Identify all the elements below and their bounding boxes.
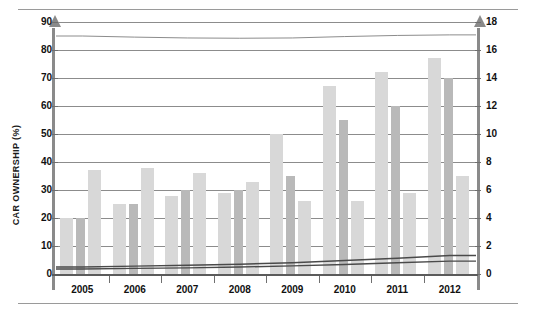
y-axis-left-tick-label: 0 bbox=[12, 269, 52, 279]
y-axis-left-line bbox=[52, 28, 55, 290]
y-axis-left-tick-label: 40 bbox=[12, 157, 52, 167]
x-axis-tick-label: 2010 bbox=[315, 284, 375, 295]
plot-area: 9080706050403020100 181614121086420 2005… bbox=[56, 22, 476, 274]
x-axis-tick-label: 2008 bbox=[210, 284, 270, 295]
chart-figure: CAR OWNERSHIP (%) ANNUAL SALES (MILLION … bbox=[0, 0, 534, 315]
y-axis-left-tick-label: 60 bbox=[12, 101, 52, 111]
trend-line-lower bbox=[56, 261, 476, 269]
y-axis-right-tick-label: 14 bbox=[486, 73, 526, 83]
y-axis-right-tick-label: 12 bbox=[486, 101, 526, 111]
x-axis-tick bbox=[424, 276, 425, 283]
y-axis-right-tick-label: 8 bbox=[486, 157, 526, 167]
y-axis-left-tick-label: 50 bbox=[12, 129, 52, 139]
y-axis-right-tick-label: 10 bbox=[486, 129, 526, 139]
y-axis-right-line bbox=[477, 28, 480, 290]
x-axis-tick-label: 2009 bbox=[262, 284, 322, 295]
x-axis-tick bbox=[109, 276, 110, 283]
y-axis-left-tick-label: 20 bbox=[12, 213, 52, 223]
y-axis-left-tick-label: 10 bbox=[12, 241, 52, 251]
line-series-group bbox=[56, 22, 476, 274]
x-axis-tick bbox=[266, 276, 267, 283]
y-axis-left-tick-label: 30 bbox=[12, 185, 52, 195]
bottom-border-rule bbox=[18, 303, 518, 304]
y-axis-left-tick-label: 90 bbox=[12, 17, 52, 27]
x-axis-tick bbox=[371, 276, 372, 283]
top-border-rule bbox=[18, 9, 518, 10]
y-axis-left-tick-label: 80 bbox=[12, 45, 52, 55]
x-axis-tick bbox=[161, 276, 162, 283]
y-axis-right-tick-label: 16 bbox=[486, 45, 526, 55]
y-axis-left-tick-label: 70 bbox=[12, 73, 52, 83]
x-axis-baseline bbox=[52, 274, 478, 276]
x-axis-tick-label: 2007 bbox=[157, 284, 217, 295]
upper-reference-line bbox=[56, 35, 476, 38]
y-axis-right-tick-label: 0 bbox=[486, 269, 526, 279]
y-axis-right-tick-label: 18 bbox=[486, 17, 526, 27]
x-axis-tick bbox=[319, 276, 320, 283]
y-axis-right-tick-label: 4 bbox=[486, 213, 526, 223]
x-axis-tick-label: 2006 bbox=[105, 284, 165, 295]
trend-line-upper bbox=[56, 256, 476, 267]
y-axis-right-tick-label: 2 bbox=[486, 241, 526, 251]
x-axis-tick bbox=[214, 276, 215, 283]
y-axis-right-tick-label: 6 bbox=[486, 185, 526, 195]
x-axis-tick-label: 2005 bbox=[52, 284, 112, 295]
x-axis-tick-label: 2012 bbox=[420, 284, 480, 295]
x-axis-tick-label: 2011 bbox=[367, 284, 427, 295]
y-axis-left-title: CAR OWNERSHIP (%) bbox=[11, 105, 21, 245]
